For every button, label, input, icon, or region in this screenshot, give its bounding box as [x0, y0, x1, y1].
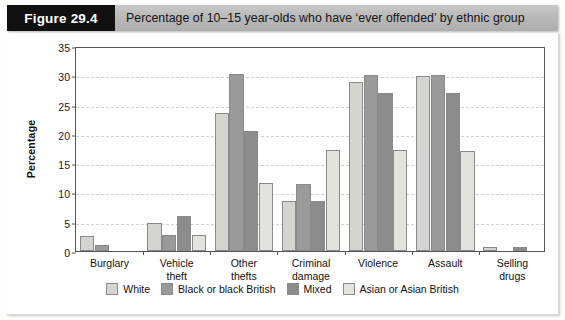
legend-label: Mixed	[304, 283, 332, 295]
bar	[259, 183, 273, 251]
figure-title: Percentage of 10–15 year-olds who have ‘…	[126, 5, 551, 31]
bar	[349, 82, 363, 251]
x-tick-mark	[412, 251, 413, 255]
bar	[192, 235, 206, 251]
legend-label: Black or black British	[178, 283, 275, 295]
bar-group: Vehicle theft	[143, 48, 210, 251]
legend-swatch-icon	[106, 283, 118, 295]
bar	[95, 245, 109, 251]
legend-label: Asian or Asian British	[360, 283, 459, 295]
chart-panel: Percentage 05101520253035BurglaryVehicle…	[7, 33, 559, 315]
legend-label: White	[123, 283, 150, 295]
legend-swatch-icon	[287, 283, 299, 295]
bar	[229, 74, 243, 251]
bar	[393, 150, 407, 251]
legend-item[interactable]: White	[106, 283, 150, 295]
x-tick-mark	[479, 251, 480, 255]
bar	[460, 151, 474, 251]
y-tick-label: 5	[64, 218, 70, 230]
y-tick-label: 25	[58, 101, 70, 113]
bar	[162, 235, 176, 251]
x-tick-mark	[210, 251, 211, 255]
x-tick-mark	[277, 251, 278, 255]
y-tick-label: 10	[58, 188, 70, 200]
figure-container: Figure 29.4 Percentage of 10–15 year-old…	[0, 0, 565, 320]
x-tick-mark	[143, 251, 144, 255]
legend-item[interactable]: Mixed	[287, 283, 332, 295]
bar	[282, 201, 296, 251]
y-tick-label: 35	[58, 42, 70, 54]
y-tick-label: 20	[58, 130, 70, 142]
bar	[311, 201, 325, 251]
y-tick-mark	[72, 253, 76, 254]
bar-group: Assault	[412, 48, 479, 251]
legend-swatch-icon	[343, 283, 355, 295]
bar-group: Other thefts	[210, 48, 277, 251]
bar-group: Criminal damage	[277, 48, 344, 251]
chart-legend: WhiteBlack or black BritishMixedAsian or…	[7, 283, 558, 295]
bar	[296, 184, 310, 251]
bar	[431, 75, 445, 251]
x-tick-mark	[345, 251, 346, 255]
bar	[147, 223, 161, 251]
legend-item[interactable]: Black or black British	[161, 283, 275, 295]
y-axis-label: Percentage	[25, 120, 37, 179]
bar	[80, 236, 94, 251]
x-tick-label: Selling drugs	[472, 257, 552, 282]
bar	[416, 76, 430, 251]
bar-group: Selling drugs	[479, 48, 546, 251]
bar	[513, 247, 527, 251]
bar-group: Violence	[345, 48, 412, 251]
legend-item[interactable]: Asian or Asian British	[343, 283, 459, 295]
y-tick-label: 30	[58, 71, 70, 83]
bar	[364, 75, 378, 251]
legend-swatch-icon	[161, 283, 173, 295]
bar	[244, 131, 258, 251]
bar-group: Burglary	[76, 48, 143, 251]
bar	[483, 247, 497, 251]
figure-number-badge: Figure 29.4	[7, 5, 115, 31]
y-tick-label: 15	[58, 159, 70, 171]
bar	[446, 93, 460, 251]
bar	[215, 113, 229, 251]
plot-area: 05101520253035BurglaryVehicle theftOther…	[75, 47, 545, 252]
bar	[326, 150, 340, 251]
bar	[378, 93, 392, 251]
bar	[177, 216, 191, 251]
